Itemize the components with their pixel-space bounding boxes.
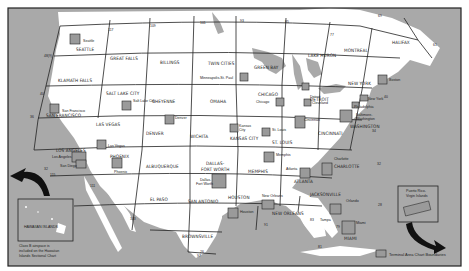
svg-text:79: 79 (336, 225, 340, 229)
svg-text:Terminal Area Chart Boundaries: Terminal Area Chart Boundaries (389, 252, 446, 257)
svg-text:ST. LOUIS: ST. LOUIS (272, 140, 293, 145)
svg-text:CHARLOTTE: CHARLOTTE (334, 164, 360, 169)
svg-text:111: 111 (90, 184, 95, 188)
svg-text:CHICAGO: CHICAGO (258, 92, 279, 97)
svg-text:32: 32 (44, 167, 48, 171)
svg-text:Miami: Miami (356, 221, 366, 225)
svg-text:Minneapolis-St. Paul: Minneapolis-St. Paul (200, 76, 233, 80)
svg-text:SAN ANTONIO: SAN ANTONIO (188, 199, 219, 204)
svg-text:Puerto Rico-: Puerto Rico- (406, 189, 427, 193)
svg-text:61: 61 (433, 43, 437, 47)
svg-text:ATLANTA: ATLANTA (294, 179, 313, 184)
svg-text:included on the Hawaiian: included on the Hawaiian (19, 249, 59, 253)
svg-text:NEW YORK: NEW YORK (348, 81, 371, 86)
svg-text:Las Vegas: Las Vegas (108, 144, 125, 148)
svg-text:DALLAS-: DALLAS- (206, 161, 225, 166)
svg-text:San Diego: San Diego (60, 164, 77, 168)
svg-text:Orlando: Orlando (346, 199, 359, 203)
svg-text:40: 40 (384, 95, 388, 99)
svg-text:36: 36 (30, 115, 34, 119)
svg-text:77: 77 (330, 33, 334, 37)
svg-text:GREEN BAY: GREEN BAY (254, 65, 279, 70)
svg-text:TWIN CITIES: TWIN CITIES (207, 61, 235, 66)
svg-text:Boston: Boston (389, 78, 400, 82)
svg-text:LAS VEGAS: LAS VEGAS (96, 122, 120, 127)
svg-text:New York: New York (368, 97, 383, 101)
svg-text:Tampa: Tampa (320, 218, 331, 222)
svg-text:GREAT FALLS: GREAT FALLS (110, 56, 138, 61)
svg-text:CINCINNATI: CINCINNATI (318, 131, 343, 136)
svg-text:EL PASO: EL PASO (150, 197, 168, 202)
svg-text:101: 101 (200, 21, 206, 25)
svg-text:115: 115 (50, 173, 56, 177)
svg-text:Philadelphia: Philadelphia (354, 105, 374, 109)
svg-text:93: 93 (240, 19, 244, 23)
svg-text:OMAHA: OMAHA (210, 99, 226, 104)
svg-text:Los Angeles: Los Angeles (52, 155, 72, 159)
svg-text:48(9): 48(9) (44, 54, 52, 58)
svg-text:LAKE HURON: LAKE HURON (308, 53, 336, 58)
svg-text:MIAMI: MIAMI (344, 236, 357, 241)
svg-text:HOUSTON: HOUSTON (228, 195, 250, 200)
svg-text:Atlanta: Atlanta (286, 167, 297, 171)
svg-text:81: 81 (318, 245, 322, 249)
svg-text:New Orleans: New Orleans (262, 194, 283, 198)
svg-text:BILLINGS: BILLINGS (160, 60, 180, 65)
svg-text:HALIFAX: HALIFAX (392, 40, 410, 45)
svg-text:LOS ANGELES: LOS ANGELES (56, 148, 86, 153)
svg-text:San Francisco: San Francisco (62, 109, 85, 113)
svg-text:Denver: Denver (175, 116, 187, 120)
svg-text:Cleveland: Cleveland (312, 101, 328, 105)
svg-text:PHOENIX: PHOENIX (110, 154, 129, 159)
svg-text:Salt Lake City: Salt Lake City (133, 99, 155, 103)
svg-text:KANSAS CITY: KANSAS CITY (230, 136, 259, 141)
svg-text:Seattle: Seattle (83, 39, 94, 43)
svg-text:SALT LAKE CITY: SALT LAKE CITY (106, 91, 140, 96)
svg-text:NEW ORLEANS: NEW ORLEANS (272, 211, 304, 216)
svg-text:117: 117 (108, 28, 114, 32)
svg-text:CHEYENNE: CHEYENNE (152, 99, 176, 104)
svg-text:Islands Sectional Chart: Islands Sectional Chart (19, 254, 56, 258)
svg-text:City: City (239, 128, 245, 132)
svg-text:85: 85 (285, 20, 289, 24)
svg-text:WICHITA: WICHITA (190, 134, 208, 139)
svg-text:MONTREAL: MONTREAL (344, 48, 368, 53)
svg-text:Cincinnati: Cincinnati (304, 118, 320, 122)
svg-text:DENVER: DENVER (146, 131, 164, 136)
svg-text:ALBUQUERQUE: ALBUQUERQUE (146, 164, 179, 169)
svg-text:SAN FRANCISCO: SAN FRANCISCO (46, 113, 82, 118)
puerto-rico-inset: Puerto Rico- Virgin Islands (398, 186, 438, 222)
svg-text:Class B airspace is: Class B airspace is (19, 244, 50, 248)
svg-text:HAWAIIAN ISLANDS: HAWAIIAN ISLANDS (24, 225, 58, 229)
svg-text:40: 40 (40, 92, 44, 96)
svg-text:Washington: Washington (356, 117, 375, 121)
svg-text:Houston: Houston (240, 210, 253, 214)
svg-text:Chicago: Chicago (256, 100, 269, 104)
svg-text:KLAMATH FALLS: KLAMATH FALLS (58, 78, 93, 83)
svg-text:103: 103 (130, 217, 136, 221)
svg-text:Fort Worth: Fort Worth (196, 182, 213, 186)
svg-text:Phoenix: Phoenix (114, 170, 127, 174)
svg-text:26: 26 (200, 250, 204, 254)
svg-text:Detroit: Detroit (310, 95, 321, 99)
svg-text:SEATTLE: SEATTLE (76, 47, 95, 52)
svg-text:Memphis: Memphis (276, 153, 291, 157)
svg-text:109: 109 (150, 24, 156, 28)
svg-text:83: 83 (310, 218, 314, 222)
sectional-chart-index-map: SEATTLE GREAT FALLS BILLINGS TWIN CITIES… (0, 0, 469, 271)
svg-text:FORT WORTH: FORT WORTH (201, 167, 230, 172)
svg-text:91: 91 (264, 223, 268, 227)
svg-text:32: 32 (377, 162, 381, 166)
svg-text:28: 28 (378, 203, 382, 207)
svg-text:BROWNSVILLE: BROWNSVILLE (182, 234, 213, 239)
svg-text:St. Louis: St. Louis (272, 128, 286, 132)
svg-text:MEMPHIS: MEMPHIS (248, 169, 268, 174)
svg-text:Virgin Islands: Virgin Islands (406, 194, 428, 198)
svg-text:97: 97 (197, 254, 201, 258)
svg-text:69: 69 (378, 14, 382, 18)
svg-text:34: 34 (372, 129, 376, 133)
svg-text:JACKSONVILLE: JACKSONVILLE (309, 192, 341, 197)
svg-text:Charlotte: Charlotte (334, 157, 349, 161)
